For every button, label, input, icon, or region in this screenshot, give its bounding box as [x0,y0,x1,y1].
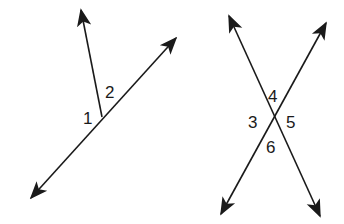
ray-upper-left [81,10,102,117]
angle-label-6: 6 [266,138,275,157]
line-b-right [221,23,326,214]
angles-diagram: 1 2 3 4 5 6 [0,0,344,224]
angle-label-1: 1 [83,109,92,128]
figure-intersecting-lines: 3 4 5 6 [221,16,326,216]
diagram-canvas: 1 2 3 4 5 6 [0,0,344,224]
angle-label-4: 4 [268,87,277,106]
angle-label-5: 5 [286,113,295,132]
line-main-left [31,38,176,198]
figure-adjacent-angles: 1 2 [31,10,176,198]
angle-label-3: 3 [248,113,257,132]
angle-label-2: 2 [105,83,114,102]
